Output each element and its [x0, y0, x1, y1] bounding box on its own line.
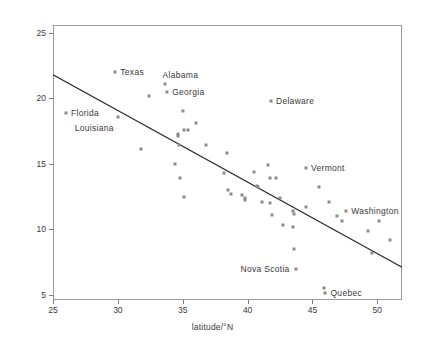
y-axis-tick — [49, 164, 53, 165]
data-point — [367, 229, 370, 232]
x-axis-tick — [118, 300, 119, 304]
data-point — [269, 99, 272, 102]
x-axis-tick-label: 45 — [308, 305, 317, 315]
y-axis-tick-label: 25 — [37, 28, 46, 38]
data-point — [183, 195, 186, 198]
data-point — [324, 292, 327, 295]
data-point — [229, 192, 232, 195]
y-axis-tick — [49, 33, 53, 34]
data-point — [323, 287, 326, 290]
data-point — [166, 90, 169, 93]
x-axis-tick — [312, 300, 313, 304]
y-axis-tick-label: 10 — [37, 224, 46, 234]
x-axis-label: latitude/°N — [0, 322, 425, 332]
y-axis-tick-label: 15 — [37, 159, 46, 169]
data-point — [293, 247, 296, 250]
data-point — [194, 122, 197, 125]
plot-area: FloridaTexasLouisianaAlabamaGeorgiaDelaw… — [53, 25, 402, 300]
x-axis-tick-label: 35 — [178, 305, 187, 315]
data-point — [281, 224, 284, 227]
data-point — [181, 110, 184, 113]
y-axis-tick — [49, 229, 53, 230]
data-point — [186, 128, 189, 131]
y-axis-tick-label: 20 — [37, 93, 46, 103]
data-point — [183, 128, 186, 131]
y-axis-tick — [49, 295, 53, 296]
point-label: Delaware — [276, 96, 314, 106]
data-point — [279, 196, 282, 199]
data-point — [260, 200, 263, 203]
data-point — [114, 71, 117, 74]
data-point — [389, 238, 392, 241]
x-axis-tick-label: 25 — [48, 305, 57, 315]
data-point — [317, 186, 320, 189]
x-axis-tick-label: 30 — [113, 305, 122, 315]
point-label: Louisiana — [75, 123, 114, 133]
data-point — [336, 215, 339, 218]
data-point — [256, 186, 259, 189]
data-point — [371, 251, 374, 254]
x-axis-tick — [183, 300, 184, 304]
data-point — [267, 164, 270, 167]
point-label: Washington — [351, 206, 399, 216]
data-point — [64, 111, 67, 114]
data-point — [223, 171, 226, 174]
data-point — [268, 202, 271, 205]
point-label: Vermont — [311, 163, 345, 173]
data-point — [275, 177, 278, 180]
point-label: Georgia — [172, 87, 204, 97]
data-point — [293, 212, 296, 215]
data-point — [377, 220, 380, 223]
x-axis-tick-label: 40 — [243, 305, 252, 315]
x-axis-tick — [377, 300, 378, 304]
y-axis-label: deaths per million from melanoma — [10, 0, 24, 64]
point-label: Texas — [120, 67, 144, 77]
data-point — [140, 148, 143, 151]
data-point — [304, 166, 307, 169]
point-label: Florida — [71, 108, 99, 118]
data-point — [176, 135, 179, 138]
data-point — [268, 177, 271, 180]
x-axis-tick — [53, 300, 54, 304]
y-axis-tick-label: 5 — [41, 290, 46, 300]
data-point — [225, 152, 228, 155]
data-point — [345, 209, 348, 212]
y-axis-tick — [49, 98, 53, 99]
data-point — [177, 144, 180, 147]
x-axis-tick-label: 50 — [373, 305, 382, 315]
data-point — [244, 199, 247, 202]
data-point — [227, 189, 230, 192]
data-point — [328, 200, 331, 203]
data-point — [292, 225, 295, 228]
y-axis-label-wrap: deaths per million from melanoma — [0, 25, 14, 300]
data-point — [116, 115, 119, 118]
data-point — [173, 162, 176, 165]
regression-line — [53, 25, 402, 300]
x-axis-tick — [248, 300, 249, 304]
data-point — [341, 220, 344, 223]
point-label: Alabama — [163, 70, 199, 80]
point-label: Quebec — [330, 288, 362, 298]
data-point — [148, 94, 151, 97]
point-label: Nova Scotia — [240, 264, 289, 274]
data-point — [253, 170, 256, 173]
data-point — [205, 144, 208, 147]
data-point — [163, 82, 166, 85]
data-point — [271, 213, 274, 216]
data-point — [304, 206, 307, 209]
data-point — [179, 177, 182, 180]
chart-page: FloridaTexasLouisianaAlabamaGeorgiaDelaw… — [0, 0, 425, 347]
data-point — [294, 267, 297, 270]
